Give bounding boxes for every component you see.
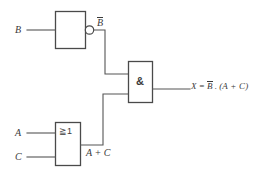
input-label-b: B (15, 25, 21, 35)
wire-aorc-to-and (81, 94, 129, 145)
inverter-bubble-icon (85, 26, 93, 34)
input-label-c: C (15, 152, 22, 162)
signal-label-a-or-c: A + C (86, 148, 110, 158)
output-expression: X=B.(A + C) (191, 82, 248, 91)
and-gate-symbol: & (136, 76, 144, 87)
output-expr-equals: = (197, 81, 207, 91)
output-expr-group: (A + C) (219, 81, 248, 91)
signal-label-not-b: B (97, 18, 103, 28)
logic-circuit-diagram: B A C B A + C & ≧1 X=B.(A + C) (0, 0, 253, 177)
wire-notb-to-and (94, 30, 128, 74)
output-expr-lhs: X (191, 81, 197, 91)
not-b-overbar-text: B (97, 18, 103, 28)
inverter-gate-box (56, 12, 86, 49)
or-gate-symbol: ≧1 (59, 127, 72, 136)
input-label-a: A (15, 128, 21, 138)
output-expr-not-b: B (207, 82, 213, 91)
